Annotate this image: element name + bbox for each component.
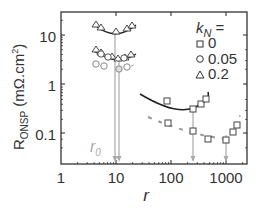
legend-triangle-icon bbox=[196, 71, 204, 78]
legend-label-02: 0.2 bbox=[208, 65, 229, 82]
legend: kN = 0 0.05 0.2 bbox=[196, 19, 237, 82]
y-tick-1: 1 bbox=[48, 77, 56, 94]
chart: 1 10 100 1000 0.1 1 10 r RONSP (mΩ.cm2) bbox=[0, 0, 259, 209]
x-tick-1000: 1000 bbox=[209, 169, 242, 186]
minor-ticks bbox=[61, 20, 247, 164]
y-tick-0.1: 0.1 bbox=[35, 126, 56, 143]
fit-curve-kn0-lower bbox=[148, 117, 226, 139]
series-kn02-upper bbox=[92, 21, 136, 34]
y-axis-label: RONSP (mΩ.cm2) bbox=[10, 44, 30, 150]
x-axis-label: r bbox=[143, 186, 150, 205]
r0-annotation: r0 bbox=[90, 138, 101, 158]
y-tick-10: 10 bbox=[39, 28, 56, 45]
legend-square-icon bbox=[197, 41, 203, 47]
x-tick-10: 10 bbox=[108, 169, 125, 186]
x-tick-100: 100 bbox=[158, 169, 183, 186]
series-kn0-lower bbox=[165, 120, 240, 143]
legend-circle-icon bbox=[197, 56, 204, 63]
x-tick-1: 1 bbox=[57, 169, 65, 186]
legend-label-0: 0 bbox=[208, 34, 216, 51]
series-kn005 bbox=[93, 61, 130, 72]
